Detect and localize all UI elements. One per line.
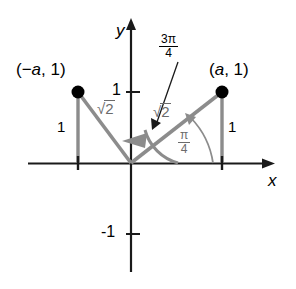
angle-fraction-three-pi-over-four: 3π 4 bbox=[159, 33, 178, 59]
left-point-label: (−a, 1) bbox=[16, 61, 66, 78]
right-point-label: (a, 1) bbox=[209, 61, 249, 78]
right-vertical-length-label: 1 bbox=[228, 119, 236, 134]
x-axis-arrowhead bbox=[262, 159, 275, 169]
angle-label-three-pi-over-four: 3π 4 bbox=[159, 33, 178, 60]
angle-fraction-small-numerator: π bbox=[178, 129, 190, 142]
coordinate-plane-figure: (−a, 1) (a, 1) y x 1 -1 1 1 √2 √2 3π 4 π… bbox=[0, 0, 296, 289]
angle-label-pi-over-four: π 4 bbox=[178, 129, 190, 156]
left-point-label-var: a bbox=[32, 60, 41, 79]
point-marker-left bbox=[72, 86, 85, 99]
y-axis-label: y bbox=[116, 22, 125, 39]
left-point-label-rest: , 1) bbox=[41, 60, 66, 79]
tick-label-y-negative-one: -1 bbox=[101, 224, 115, 240]
angle-arc-pi-over-four bbox=[191, 118, 213, 163]
left-radius-length-label: √2 bbox=[97, 100, 115, 116]
right-radical-radicand: 2 bbox=[160, 103, 170, 119]
angle-fraction-pi-over-four: π 4 bbox=[178, 129, 190, 155]
angle-arc-three-pi-over-four-arrowhead bbox=[122, 133, 147, 148]
right-point-label-var: a bbox=[215, 60, 224, 79]
left-radical-radicand: 2 bbox=[104, 100, 114, 116]
angle-fraction-numerator: 3π bbox=[159, 33, 178, 46]
x-axis-label: x bbox=[268, 172, 277, 189]
left-vertical-length-label: 1 bbox=[57, 119, 65, 134]
y-axis-arrowhead bbox=[126, 18, 136, 30]
right-radical-symbol-group: √2 bbox=[153, 103, 171, 119]
angle-fraction-small-denominator: 4 bbox=[178, 142, 190, 156]
right-radius-length-label: √2 bbox=[153, 103, 171, 119]
right-point-label-rest: , 1) bbox=[224, 60, 249, 79]
tick-label-y-one: 1 bbox=[112, 82, 121, 98]
point-marker-right bbox=[216, 86, 229, 99]
left-point-label-minus: − bbox=[22, 60, 32, 79]
right-radius-segment bbox=[131, 92, 222, 163]
figure-graphics bbox=[0, 0, 296, 289]
angle-fraction-denominator: 4 bbox=[159, 46, 178, 60]
left-radical-symbol-group: √2 bbox=[97, 100, 115, 116]
